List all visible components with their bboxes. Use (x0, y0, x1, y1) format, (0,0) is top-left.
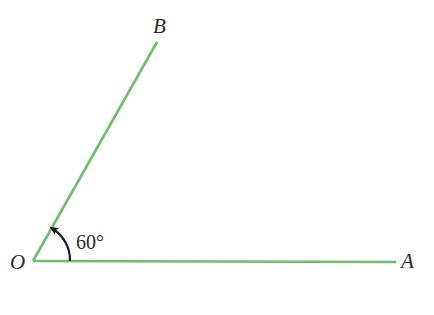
point-label-a: A (399, 249, 414, 273)
ray-ob (33, 42, 157, 261)
ray-oa (33, 261, 396, 262)
angle-arc-arrow-icon (53, 229, 70, 261)
point-label-b: B (153, 14, 166, 38)
angle-label: 60° (76, 231, 104, 253)
angle-diagram: 60° O A B (0, 0, 434, 315)
point-label-o: O (10, 250, 25, 274)
